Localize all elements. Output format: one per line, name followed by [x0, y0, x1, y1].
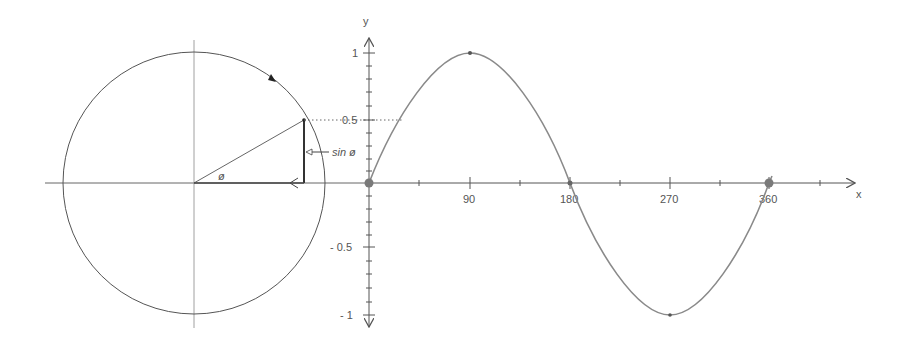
point-origin [365, 179, 374, 188]
sine-graph-group: x y 1 0.5 - 0.5 - 1 [330, 15, 862, 327]
radius-line [194, 120, 304, 183]
sin-pointer-icon [306, 149, 312, 155]
sin-label: sin ø [332, 146, 356, 158]
y-tick-neg-1: - 1 [340, 309, 353, 321]
x-tick-90: 90 [463, 193, 475, 205]
point-90 [468, 51, 472, 55]
y-tick-0.5: 0.5 [342, 114, 357, 126]
x-tick-270: 270 [660, 193, 678, 205]
y-axis-label: y [363, 15, 369, 27]
y-tick-neg-0.5: - 0.5 [330, 241, 352, 253]
unit-circle-group: ø sin ø [45, 40, 404, 328]
y-tick-1: 1 [352, 47, 358, 59]
point-270 [668, 313, 672, 317]
x-axis-label: x [856, 188, 862, 200]
point-360 [765, 179, 774, 188]
angle-label: ø [218, 170, 225, 182]
point-180 [568, 181, 573, 186]
sine-unit-circle-diagram: ø sin ø x y 1 [0, 0, 897, 347]
